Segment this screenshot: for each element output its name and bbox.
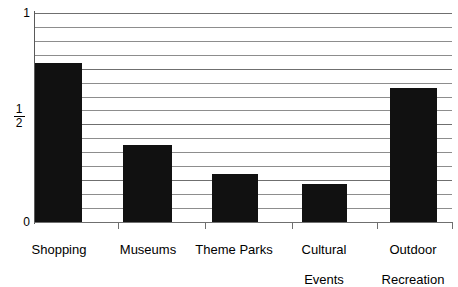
x-category-line2: Recreation	[382, 272, 445, 287]
plot-area	[35, 13, 452, 222]
x-category-line1: Shopping	[32, 242, 87, 257]
gridline	[35, 27, 452, 28]
y-tick-half-numerator: 1	[10, 104, 28, 116]
x-category-line1: Museums	[120, 242, 176, 257]
bar-museums	[123, 145, 172, 222]
x-category-label-outdoor-recreation: Outdoor Recreation	[368, 227, 458, 287]
y-tick-label-half: 1 2	[10, 104, 28, 129]
x-category-label-museums: Museums	[108, 227, 188, 257]
x-category-line1: Outdoor	[390, 242, 437, 257]
x-category-line1: Theme Parks	[195, 242, 272, 257]
bar-outdoor-recreation	[390, 88, 437, 222]
y-tick-label-1: 1	[8, 7, 30, 19]
gridline	[35, 41, 452, 42]
x-category-label-shopping: Shopping	[19, 227, 99, 257]
bar-shopping	[35, 63, 82, 222]
y-axis-line	[34, 11, 35, 224]
gridline	[35, 55, 452, 56]
x-axis-line	[34, 222, 453, 223]
x-category-label-theme-parks: Theme Parks	[188, 227, 280, 257]
gridline	[35, 83, 452, 84]
x-category-line1: Cultural	[302, 242, 347, 257]
x-category-label-cultural-events: Cultural Events	[284, 227, 364, 287]
gridline	[35, 69, 452, 70]
bar-theme-parks	[212, 174, 258, 222]
y-tick-half-denominator: 2	[10, 117, 28, 129]
gridline	[35, 13, 452, 14]
x-category-line2: Events	[304, 272, 344, 287]
bar-cultural-events	[302, 184, 347, 222]
